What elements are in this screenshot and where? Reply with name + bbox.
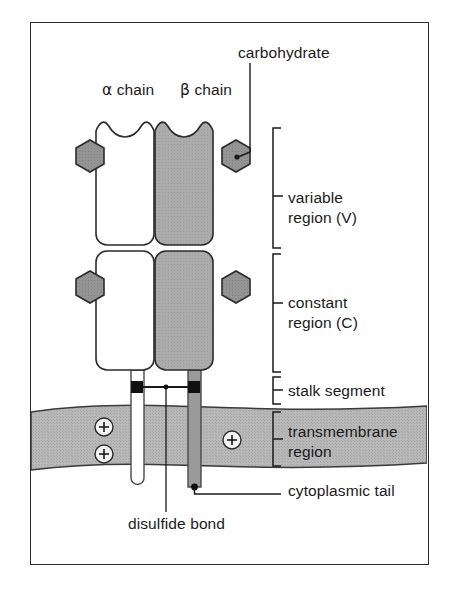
beta-symbol: β <box>180 81 190 99</box>
alpha-symbol: α <box>102 81 112 99</box>
charge-symbol-alpha-lower <box>95 445 113 463</box>
label-disulfide-bond: disulfide bond <box>128 514 225 535</box>
label-stalk-segment: stalk segment <box>288 381 385 402</box>
carbohydrate-hexagon-beta-lower <box>222 271 250 303</box>
bracket-stalk-segment <box>273 377 283 404</box>
charge-symbol-alpha-upper <box>95 418 113 436</box>
label-alpha-chain: α chain <box>102 80 154 101</box>
constant-region-line1: constant <box>288 294 347 311</box>
figure-page: carbohydrate α chain β chain variablereg… <box>0 0 460 592</box>
alpha-constant-domain <box>96 251 154 370</box>
label-variable-region: variableregion (V) <box>288 188 357 229</box>
label-constant-region: constantregion (C) <box>288 293 358 334</box>
carbohydrate-hexagon-alpha-upper <box>76 140 104 172</box>
constant-region-line2: region (C) <box>288 314 358 331</box>
variable-region-line1: variable <box>288 189 343 206</box>
carbohydrate-hexagon-alpha-lower <box>76 271 104 303</box>
label-cytoplasmic-tail: cytoplasmic tail <box>288 481 395 502</box>
bracket-variable-region <box>273 128 283 248</box>
alpha-chain-word: chain <box>117 81 155 98</box>
label-transmembrane-region: transmembraneregion <box>288 422 398 463</box>
alpha-variable-domain <box>96 122 154 245</box>
label-carbohydrate: carbohydrate <box>238 43 330 64</box>
beta-constant-domain <box>155 251 213 370</box>
cytoplasmic-tail-leader-line <box>191 484 281 494</box>
charge-symbol-beta <box>223 431 241 449</box>
beta-variable-domain <box>155 122 213 245</box>
beta-chain-word: chain <box>194 81 232 98</box>
transmembrane-line2: region <box>288 443 332 460</box>
bracket-constant-region <box>273 254 283 372</box>
variable-region-line2: region (V) <box>288 209 357 226</box>
transmembrane-line1: transmembrane <box>288 423 398 440</box>
label-beta-chain: β chain <box>180 80 232 101</box>
